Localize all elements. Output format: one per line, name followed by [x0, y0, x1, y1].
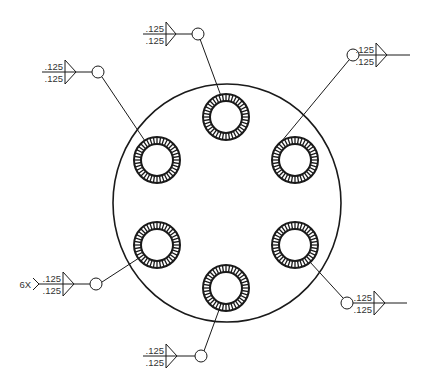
weld-symbol-lower-right: .125 .125 — [310, 262, 407, 315]
hole-upper-left — [134, 137, 180, 183]
weld-all-around-icon — [192, 28, 204, 40]
hole-lower-left — [134, 222, 180, 268]
weld-size-other-side: .125 — [146, 357, 165, 368]
leader-line — [102, 77, 145, 141]
weld-size-arrow-side: .125 — [45, 61, 64, 72]
hole-lower-right — [272, 222, 318, 268]
leader-line — [281, 60, 349, 142]
weld-size-other-side: .125 — [43, 285, 62, 296]
weld-all-around-icon — [347, 49, 359, 61]
weld-drawing: .125 .125 .125 .125 .125 .125 6X .125 .1… — [0, 0, 430, 389]
leader-line — [200, 39, 221, 96]
weld-size-other-side: .125 — [354, 304, 373, 315]
weld-size-arrow-side: .125 — [354, 292, 373, 303]
weld-symbol-lower-left: 6X .125 .125 — [19, 258, 139, 296]
weld-size-arrow-side: .125 — [146, 345, 165, 356]
leader-line — [204, 310, 219, 351]
weld-size-arrow-side: .125 — [43, 273, 62, 284]
weld-symbol-bottom: .125 .125 — [143, 310, 219, 368]
weld-size-other-side: .125 — [45, 73, 64, 84]
hole-upper-right — [272, 137, 318, 183]
weld-symbol-upper-right: .125 .125 — [281, 43, 410, 142]
weld-size-arrow-side: .125 — [146, 23, 165, 34]
weld-all-around-icon — [92, 66, 104, 78]
weld-all-around-icon — [195, 350, 207, 362]
weld-symbol-upper-left: .125 .125 — [42, 60, 145, 141]
weld-size-other-side: .125 — [146, 35, 165, 46]
weld-all-around-icon — [90, 278, 102, 290]
weld-all-around-icon — [341, 297, 353, 309]
plate-outline — [113, 84, 341, 322]
hole-bottom — [203, 265, 249, 311]
tail-icon — [33, 278, 39, 290]
hole-top — [203, 94, 249, 140]
holes-group — [134, 94, 318, 311]
quantity-note: 6X — [19, 279, 31, 290]
